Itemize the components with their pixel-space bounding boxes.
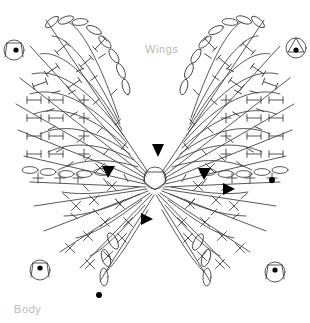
left-wing-ribs: [16, 20, 154, 281]
dot-right-icon: [269, 177, 275, 183]
chart-canvas: Wings Body: [0, 0, 310, 323]
marker-top-left-icon: [4, 40, 24, 60]
wings-label: Wings: [145, 43, 179, 55]
center-hub: [144, 167, 166, 190]
dot-bottom-icon: [96, 292, 102, 298]
right-wing-stitches: [178, 37, 284, 269]
marker-bottom-left-icon: [30, 260, 50, 280]
left-wing-stitches: [27, 37, 133, 269]
marker-bottom-right-icon: [265, 262, 285, 282]
triangle-lower-icon: [141, 213, 153, 225]
body-label: Body: [14, 303, 41, 315]
marker-top-right-icon: [286, 38, 306, 58]
stitch-marker-group: [4, 38, 306, 282]
right-wing-ribs: [156, 20, 294, 281]
triangle-center-icon: [152, 144, 164, 157]
